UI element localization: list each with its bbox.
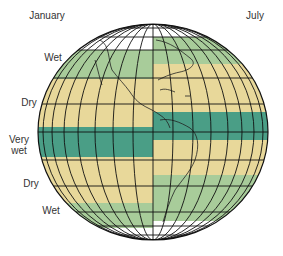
band-none	[30, 24, 280, 37]
globe-diagram	[0, 0, 283, 256]
band-none	[30, 221, 280, 240]
